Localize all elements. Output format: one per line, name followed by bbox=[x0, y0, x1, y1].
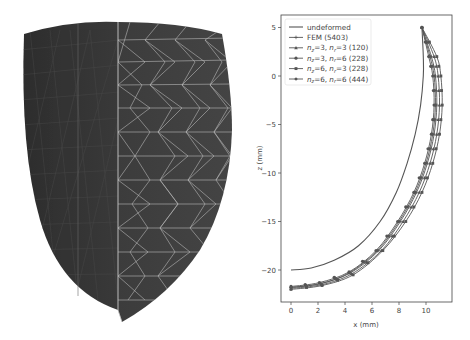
x-tick-label: 0 bbox=[289, 307, 293, 315]
x-tick-label: 4 bbox=[343, 307, 348, 315]
legend-entry: FEM (5403) bbox=[307, 33, 348, 42]
mesh-outer-surface bbox=[23, 22, 118, 310]
y-tick-label: 0 bbox=[272, 73, 276, 81]
legend-entry: nz=6, nr=3 (228) bbox=[307, 64, 368, 74]
x-tick-label: 8 bbox=[397, 307, 401, 315]
mesh-render-panel bbox=[0, 0, 245, 340]
y-tick-label: −5 bbox=[266, 121, 276, 129]
x-tick-label: 2 bbox=[316, 307, 320, 315]
y-tick-label: −15 bbox=[261, 218, 276, 226]
x-axis-label: x (mm) bbox=[353, 321, 379, 329]
legend-entry: nz=3, nr=3 (120) bbox=[307, 43, 368, 53]
x-axis-ticks: 0246810 bbox=[289, 302, 431, 315]
y-axis-label: z (mm) bbox=[256, 145, 264, 170]
mesh-cut-surface bbox=[118, 22, 232, 322]
y-axis-ticks: 50−5−10−15−20 bbox=[261, 24, 281, 275]
y-tick-label: 5 bbox=[272, 24, 276, 32]
legend-entry: undeformed bbox=[307, 23, 351, 32]
chart-legend: undeformedFEM (5403)nz=3, nr=3 (120)nz=3… bbox=[285, 19, 371, 85]
x-tick-label: 10 bbox=[422, 307, 431, 315]
ventricle-mesh-image bbox=[0, 0, 245, 340]
x-tick-label: 6 bbox=[370, 307, 375, 315]
y-tick-label: −20 bbox=[261, 267, 276, 275]
chart-svg: 0246810 50−5−10−15−20 x (mm) z (mm) unde… bbox=[245, 0, 470, 340]
legend-entry: nz=6, nr=6 (444) bbox=[307, 75, 368, 85]
displacement-chart: 0246810 50−5−10−15−20 x (mm) z (mm) unde… bbox=[245, 0, 470, 340]
legend-entry: nz=3, nr=6 (228) bbox=[307, 54, 368, 64]
